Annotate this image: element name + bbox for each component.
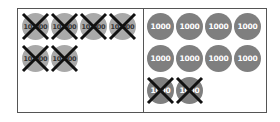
cross-out-icon [174,75,205,106]
cross-out-icon [145,75,176,106]
thousand-chip: 1000 [147,45,174,72]
cross-out-icon [49,11,80,42]
ten-thousand-chip: 10,000 [51,45,78,72]
place-value-chart: 10,000 10,000 10,000 10,000 10,000 10,00… [17,8,267,113]
thousand-chip: 1000 [147,13,174,40]
thousand-chip: 1000 [147,77,174,104]
ten-thousands-panel: 10,000 10,000 10,000 10,000 10,000 10,00… [18,9,144,112]
ten-thousand-chip: 10,000 [22,13,49,40]
thousand-chip: 1000 [176,77,203,104]
cross-out-icon [20,11,51,42]
ten-thousand-chip: 10,000 [80,13,107,40]
thousand-chip: 1000 [205,13,232,40]
ten-thousand-chip: 10,000 [51,13,78,40]
ten-thousand-chip: 10,000 [22,45,49,72]
cross-out-icon [49,43,80,74]
cross-out-icon [107,11,138,42]
cross-out-icon [20,43,51,74]
cross-out-icon [78,11,109,42]
ten-thousand-chip: 10,000 [109,13,136,40]
thousands-panel: 1000 1000 1000 1000 1000 1000 1000 1000 … [144,9,266,112]
thousand-chip: 1000 [176,45,203,72]
thousand-chip: 1000 [234,45,261,72]
thousand-chip: 1000 [176,13,203,40]
thousand-chip: 1000 [205,45,232,72]
thousand-chip: 1000 [234,13,261,40]
